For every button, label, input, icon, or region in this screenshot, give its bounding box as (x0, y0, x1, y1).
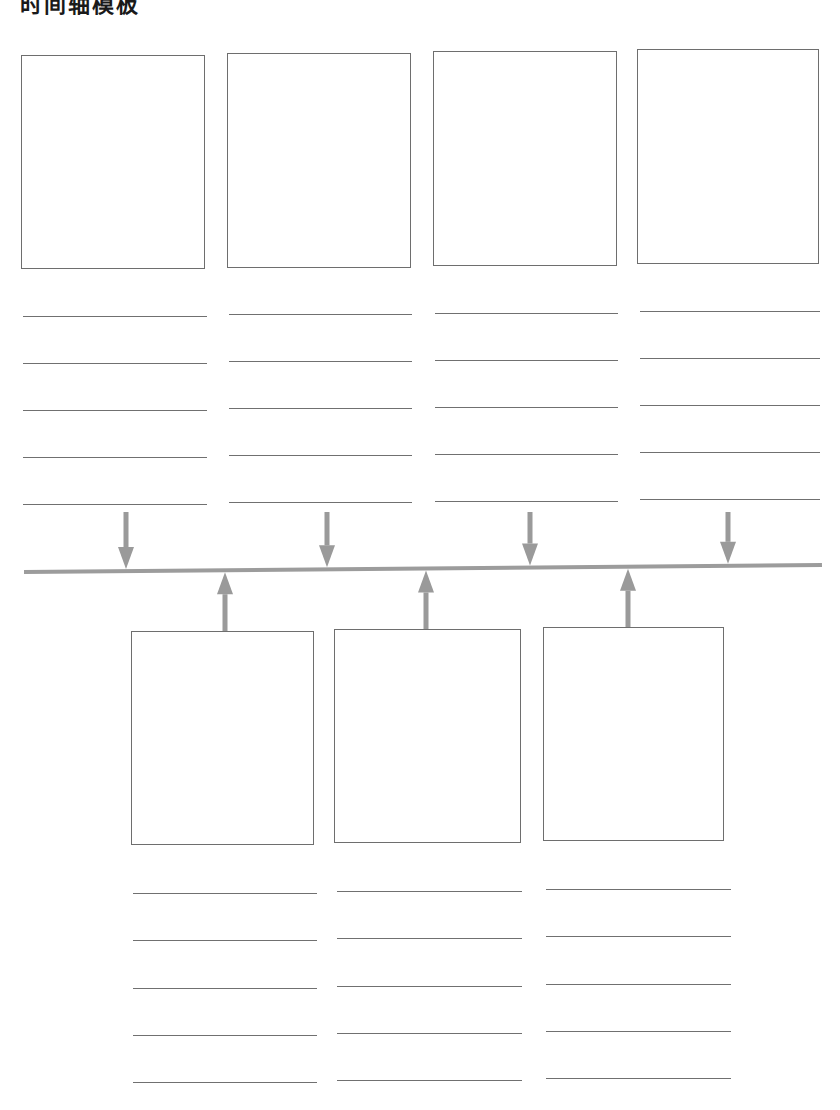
bottom-event-3-writing-line-3 (546, 984, 731, 985)
bottom-event-3-writing-line-1 (546, 889, 731, 890)
top-event-2-writing-line-5 (229, 502, 412, 503)
top-event-2-writing-line-4 (229, 455, 412, 456)
top-event-2-writing-line-3 (229, 408, 412, 409)
top-event-3-writing-line-3 (435, 407, 618, 408)
down-arrow-icon-3 (522, 512, 538, 566)
down-arrow-icon-4 (720, 512, 736, 564)
top-event-2-writing-line-2 (229, 361, 412, 362)
bottom-event-2-writing-line-2 (337, 938, 522, 939)
bottom-event-2-writing-line-3 (337, 986, 522, 987)
bottom-event-1-writing-line-2 (133, 940, 317, 941)
up-arrow-icon-1 (217, 572, 233, 631)
page-title: 时间轴模板 (20, 0, 140, 18)
top-event-3-writing-line-4 (435, 454, 618, 455)
bottom-event-1-writing-line-1 (133, 893, 317, 894)
top-event-2-writing-line-1 (229, 314, 412, 315)
top-event-4-writing-line-1 (640, 311, 820, 312)
top-event-4-writing-line-3 (640, 405, 820, 406)
up-arrow-icon-2 (418, 570, 434, 629)
top-event-box-1 (21, 55, 205, 269)
top-event-1-writing-line-2 (23, 363, 207, 364)
bottom-event-1-writing-line-5 (133, 1082, 317, 1083)
timeline-axis (24, 563, 822, 574)
bottom-event-1-writing-line-3 (133, 988, 317, 989)
bottom-event-box-2 (334, 629, 521, 843)
top-event-1-writing-line-5 (23, 504, 207, 505)
bottom-event-3-writing-line-2 (546, 936, 731, 937)
bottom-event-2-writing-line-1 (337, 891, 522, 892)
top-event-1-writing-line-3 (23, 410, 207, 411)
top-event-3-writing-line-2 (435, 360, 618, 361)
bottom-event-box-3 (543, 627, 724, 841)
top-event-4-writing-line-4 (640, 452, 820, 453)
top-event-box-3 (433, 51, 617, 266)
up-arrow-icon-3 (620, 569, 636, 627)
down-arrow-icon-1 (118, 512, 134, 569)
top-event-1-writing-line-4 (23, 457, 207, 458)
top-event-box-2 (227, 53, 411, 268)
top-event-3-writing-line-1 (435, 313, 618, 314)
top-event-1-writing-line-1 (23, 316, 207, 317)
bottom-event-3-writing-line-5 (546, 1078, 731, 1079)
top-event-box-4 (637, 49, 819, 264)
down-arrow-icon-2 (319, 512, 335, 567)
top-event-4-writing-line-2 (640, 358, 820, 359)
top-event-4-writing-line-5 (640, 499, 820, 500)
bottom-event-3-writing-line-4 (546, 1031, 731, 1032)
top-event-3-writing-line-5 (435, 501, 618, 502)
bottom-event-1-writing-line-4 (133, 1035, 317, 1036)
bottom-event-2-writing-line-5 (337, 1080, 522, 1081)
bottom-event-2-writing-line-4 (337, 1033, 522, 1034)
bottom-event-box-1 (131, 631, 314, 845)
